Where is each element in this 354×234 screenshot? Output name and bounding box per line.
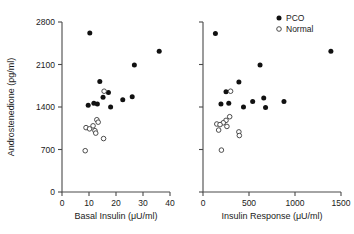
data-point-normal	[96, 120, 101, 125]
data-point-normal	[225, 124, 230, 129]
panel-right: 050010001500Insulin Response (μU/ml)	[199, 22, 351, 221]
data-point-pco	[241, 105, 246, 110]
data-point-normal	[87, 127, 92, 132]
data-point-pco	[263, 105, 268, 110]
data-point-pco	[213, 31, 218, 36]
data-point-normal	[101, 136, 106, 141]
data-point-pco	[86, 103, 91, 108]
data-point-normal	[237, 133, 242, 138]
x-ticklabel-right-500: 500	[242, 198, 256, 208]
series-right-normal	[215, 89, 242, 153]
data-point-pco	[281, 99, 286, 104]
legend-label-pco: PCO	[286, 13, 305, 23]
axis-spines-left	[62, 22, 170, 192]
x-ticklabel-left-20: 20	[111, 198, 121, 208]
data-point-pco	[97, 79, 102, 84]
axis-spines-right	[203, 22, 341, 192]
data-point-pco	[108, 105, 113, 110]
data-point-normal	[102, 89, 107, 94]
x-ticklabel-left-0: 0	[60, 198, 65, 208]
data-point-pco	[226, 101, 231, 106]
x-ticklabel-left-40: 40	[165, 198, 175, 208]
data-point-pco	[258, 63, 263, 68]
data-point-normal	[218, 122, 223, 127]
legend-marker-normal	[277, 27, 282, 32]
data-point-normal	[219, 148, 224, 153]
data-point-pco	[224, 89, 229, 94]
y-ticklabel-1400: 1400	[36, 102, 55, 112]
x-ticklabel-right-1500: 1500	[332, 198, 351, 208]
legend-marker-pco	[277, 16, 282, 21]
data-point-pco	[157, 49, 162, 54]
legend: PCONormal	[277, 13, 314, 34]
data-point-pco	[87, 30, 92, 35]
data-point-pco	[95, 101, 100, 106]
x-ticklabel-left-10: 10	[84, 198, 94, 208]
y-axis-label: Androstenedione (pg/ml)	[6, 58, 16, 157]
figure-container: 0700140021002800010203040Basal Insulin (…	[0, 0, 354, 234]
data-point-normal	[83, 148, 88, 153]
data-point-pco	[130, 94, 135, 99]
x-ticklabel-right-0: 0	[201, 198, 206, 208]
data-point-normal	[227, 114, 232, 119]
x-axis-label-right: Insulin Response (μU/ml)	[221, 211, 322, 221]
scatter-plot-figure: 0700140021002800010203040Basal Insulin (…	[0, 0, 354, 234]
y-ticklabel-2100: 2100	[36, 60, 55, 70]
y-ticklabel-0: 0	[50, 187, 55, 197]
series-right-pco	[213, 31, 333, 110]
y-ticklabel-2800: 2800	[36, 17, 55, 27]
data-point-pco	[261, 95, 266, 100]
panel-left: 0700140021002800010203040Basal Insulin (…	[6, 17, 175, 221]
data-point-pco	[328, 49, 333, 54]
data-point-normal	[228, 89, 233, 94]
x-ticklabel-right-1000: 1000	[286, 198, 305, 208]
data-point-pco	[101, 95, 106, 100]
data-point-pco	[236, 80, 241, 85]
data-point-pco	[218, 101, 223, 106]
y-ticklabel-700: 700	[41, 145, 55, 155]
data-point-pco	[120, 97, 125, 102]
data-point-normal	[93, 131, 98, 136]
legend-label-normal: Normal	[286, 24, 314, 34]
data-point-pco	[250, 99, 255, 104]
x-axis-label-left: Basal Insulin (μU/ml)	[74, 211, 157, 221]
data-point-normal	[216, 128, 221, 133]
data-point-pco	[132, 63, 137, 68]
series-left-pco	[86, 30, 162, 109]
x-ticklabel-left-30: 30	[138, 198, 148, 208]
